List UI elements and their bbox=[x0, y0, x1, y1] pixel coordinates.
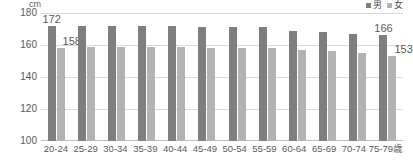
bar-value-label: 153 bbox=[394, 44, 412, 55]
x-axis-tick-labels: 20-2425-2930-3435-3940-4445-4950-5455-59… bbox=[41, 144, 403, 154]
y-axis-tick-100: 100 bbox=[20, 136, 37, 146]
legend-item-male[interactable]: 男 bbox=[366, 1, 382, 10]
bar-male[interactable] bbox=[78, 26, 86, 141]
bar-female[interactable] bbox=[298, 50, 306, 141]
bar-female[interactable] bbox=[358, 53, 366, 141]
legend-swatch-male bbox=[366, 3, 371, 8]
bar-male[interactable] bbox=[349, 34, 357, 141]
bar-female[interactable]: 153 bbox=[388, 56, 396, 141]
x-axis-label: 50-54 bbox=[220, 144, 250, 154]
bar-female[interactable] bbox=[117, 47, 125, 141]
bar-male[interactable] bbox=[108, 26, 116, 141]
bar-group bbox=[343, 13, 373, 141]
bar-group bbox=[252, 13, 282, 141]
x-axis-label: 35-39 bbox=[130, 144, 160, 154]
bar-male[interactable] bbox=[289, 31, 297, 141]
bar-female[interactable] bbox=[268, 48, 276, 141]
x-axis-label: 60-64 bbox=[279, 144, 309, 154]
x-axis-label: 45-49 bbox=[190, 144, 220, 154]
plot-area: 172158166153 bbox=[41, 13, 403, 141]
bar-groups: 172158166153 bbox=[41, 13, 403, 141]
y-axis-tick-160: 160 bbox=[20, 40, 37, 50]
legend-label-male: 男 bbox=[373, 1, 382, 10]
legend-label-female: 女 bbox=[394, 1, 403, 10]
bar-male[interactable] bbox=[198, 27, 206, 141]
bar-group bbox=[222, 13, 252, 141]
bar-group bbox=[162, 13, 192, 141]
bar-value-label: 172 bbox=[42, 14, 60, 25]
bar-group bbox=[282, 13, 312, 141]
chart-legend: 男 女 bbox=[366, 1, 403, 10]
bar-female[interactable] bbox=[177, 47, 185, 141]
y-axis-tick-180: 180 bbox=[20, 8, 37, 18]
bar-male[interactable] bbox=[138, 26, 146, 141]
bar-male[interactable]: 172 bbox=[48, 26, 56, 141]
y-axis-tick-140: 140 bbox=[20, 72, 37, 82]
bar-group: 166153 bbox=[373, 13, 403, 141]
legend-item-female[interactable]: 女 bbox=[387, 1, 403, 10]
bar-group bbox=[101, 13, 131, 141]
bar-group bbox=[313, 13, 343, 141]
bar-female[interactable] bbox=[328, 51, 336, 141]
x-axis-label: 65-69 bbox=[309, 144, 339, 154]
y-axis-tick-labels: 180 160 140 120 100 bbox=[0, 0, 41, 166]
legend-swatch-female bbox=[387, 3, 392, 8]
bar-female[interactable] bbox=[87, 47, 95, 141]
x-axis-label: 20-24 bbox=[41, 144, 71, 154]
x-axis-label: 75-79歳 bbox=[369, 144, 403, 154]
bar-female[interactable] bbox=[207, 48, 215, 141]
x-axis-label: 25-29 bbox=[71, 144, 101, 154]
bar-male[interactable] bbox=[319, 32, 327, 141]
y-axis-tick-120: 120 bbox=[20, 104, 37, 114]
x-axis-label: 55-59 bbox=[250, 144, 280, 154]
bar-female[interactable] bbox=[238, 48, 246, 141]
bar-male[interactable]: 166 bbox=[379, 35, 387, 141]
x-axis-label: 40-44 bbox=[160, 144, 190, 154]
bar-male[interactable] bbox=[259, 27, 267, 141]
bar-value-label: 166 bbox=[374, 23, 392, 34]
bar-female[interactable] bbox=[147, 47, 155, 141]
bar-male[interactable] bbox=[229, 27, 237, 141]
bar-male[interactable] bbox=[168, 26, 176, 141]
bar-group: 172158 bbox=[41, 13, 71, 141]
bar-group bbox=[132, 13, 162, 141]
bar-group bbox=[192, 13, 222, 141]
bar-group bbox=[71, 13, 101, 141]
x-axis-label: 30-34 bbox=[101, 144, 131, 154]
bar-female[interactable]: 158 bbox=[57, 48, 65, 141]
x-axis-label: 70-74 bbox=[339, 144, 369, 154]
